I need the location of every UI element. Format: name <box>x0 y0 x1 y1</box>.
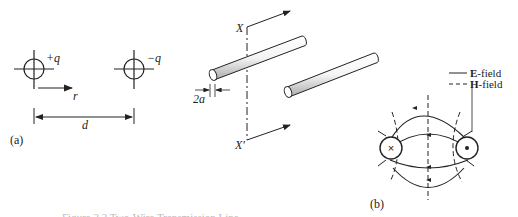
label-axis-x: X <box>236 22 243 34</box>
legend-lines <box>449 73 467 84</box>
label-d: d <box>82 119 88 131</box>
svg-text:×: × <box>388 142 394 154</box>
label-diameter: 2a <box>193 93 205 105</box>
label-panel-b: (b) <box>370 198 384 210</box>
label-minus-q: −q <box>147 52 161 64</box>
label-plus-q: +q <box>46 52 60 64</box>
label-axis-x-prime: X′ <box>235 139 245 151</box>
label-r: r <box>73 90 78 102</box>
label-panel-a: (a) <box>10 134 23 146</box>
legend-h-field: H-field <box>470 79 502 90</box>
wire-1 <box>208 36 307 81</box>
diagram-canvas: × <box>0 0 518 217</box>
figure-caption: Figure 2.2 Two-Wire Transmission Line <box>62 211 239 217</box>
wire-2 <box>283 53 379 98</box>
